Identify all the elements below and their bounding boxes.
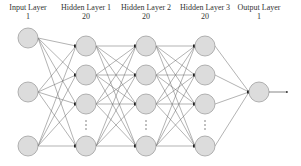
ellipsis-dot (85, 120, 86, 121)
ellipsis-dot (145, 128, 146, 129)
connection-edge (38, 92, 76, 146)
connection-edge (38, 38, 76, 146)
neuron-node (18, 136, 38, 156)
connection-edge (38, 75, 76, 92)
neuron-node (76, 94, 96, 114)
connection-edge (215, 92, 249, 104)
neuron-node (249, 82, 269, 102)
ellipsis-dot (85, 128, 86, 129)
connection-edge (38, 46, 76, 146)
neuron-node (136, 136, 156, 156)
neuron-node (195, 65, 215, 85)
neuron-node (195, 136, 215, 156)
neuron-node (195, 36, 215, 56)
ellipsis-dot (204, 124, 205, 125)
ellipsis-dot (204, 128, 205, 129)
neuron-node (195, 94, 215, 114)
neuron-node (18, 28, 38, 48)
neuron-node (136, 94, 156, 114)
connection-edge (38, 38, 76, 75)
connection-edge (38, 38, 76, 104)
neuron-node (136, 65, 156, 85)
ellipsis-dot (85, 124, 86, 125)
neurons (18, 28, 269, 156)
ellipsis-dot (204, 120, 205, 121)
connection-edge (38, 46, 76, 92)
connection-edge (215, 46, 249, 92)
neuron-node (76, 65, 96, 85)
connection-edge (215, 75, 249, 92)
ellipsis-dot (145, 120, 146, 121)
ellipsis-dot (145, 124, 146, 125)
network-diagram (0, 0, 301, 166)
neuron-node (136, 36, 156, 56)
connection-edge (38, 38, 76, 46)
connection-edge (215, 92, 249, 146)
neuron-node (18, 82, 38, 102)
neuron-node (76, 36, 96, 56)
neuron-node (76, 136, 96, 156)
